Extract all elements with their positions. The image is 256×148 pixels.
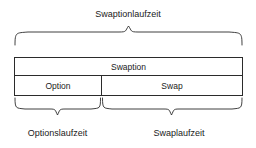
brace-up-swaptionlaufzeit <box>0 26 256 46</box>
swaption-header-row: Swaption <box>15 58 242 76</box>
cell-option: Option <box>15 76 102 95</box>
swaption-timeline-diagram: Swaptionlaufzeit Swaption Option Swap Op… <box>0 0 256 148</box>
cell-swap-label: Swap <box>161 81 182 91</box>
bottom-span-label-left: Optionslaufzeit <box>0 128 115 139</box>
cell-option-label: Option <box>45 81 70 91</box>
top-span-label: Swaptionlaufzeit <box>0 9 256 20</box>
bottom-span-label-right: Swaplaufzeit <box>115 128 243 139</box>
swaption-box: Swaption Option Swap <box>14 57 243 96</box>
swaption-header-label: Swaption <box>111 62 146 72</box>
brace-down-swaplaufzeit <box>0 98 256 120</box>
cell-swap: Swap <box>102 76 242 95</box>
swaption-component-row: Option Swap <box>15 76 242 95</box>
